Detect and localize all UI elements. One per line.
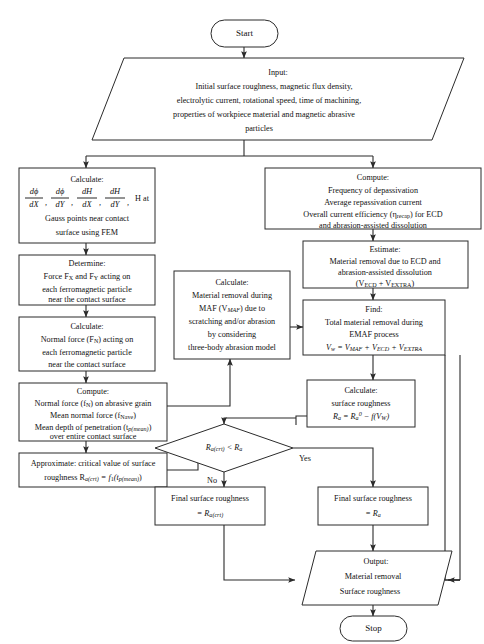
calc-roughness-line-2: surface roughness	[332, 399, 391, 408]
frac-1-num: dϕ	[30, 187, 39, 196]
comma-3: ,	[99, 198, 101, 207]
node-calculate-normal-force[interactable]: Calculate: Normal force (FN) acting on e…	[19, 317, 155, 371]
node-final-crt[interactable]: Final surface roughness = Ra(crt)	[155, 487, 265, 525]
output-line-1: Output:	[363, 557, 388, 566]
input-line-2: Initial surface roughness, magnetic flux…	[195, 82, 352, 91]
node-calculate-gradients[interactable]: Calculate: dϕ dX , dϕ dY , dH dX , dH dY…	[19, 168, 155, 243]
determine-line-2: Force FX and FY acting on	[44, 272, 131, 281]
calc-normal-heading: Calculate:	[70, 322, 103, 331]
node-calculate-maf[interactable]: Calculate: Material removal during MAF (…	[174, 271, 290, 359]
node-decision[interactable]: Ra(crt) < Ra Yes No	[155, 424, 311, 485]
output-line-2: Material removal	[345, 572, 402, 581]
calc-normal-line-2: Normal force (FN) acting on	[41, 335, 134, 344]
node-approximate-critical[interactable]: Approximate: critical value of surface r…	[19, 453, 167, 487]
find-line-2: Total material removal during	[325, 318, 423, 327]
node-compute-depassivation[interactable]: Compute: Frequency of depassivation Aver…	[265, 168, 481, 230]
node-estimate-removal[interactable]: Estimate: Material removal due to ECD an…	[303, 241, 468, 288]
node-calculate-roughness[interactable]: Calculate: surface roughness Ra = Ra0 − …	[307, 380, 415, 427]
stop-label: Stop	[365, 623, 382, 633]
determine-line-4: near the contact surface	[48, 295, 126, 304]
calc-normal-line-4: near the contact surface	[48, 360, 126, 369]
frac-1-den: dX	[29, 200, 39, 209]
frac-4-num: dH	[110, 187, 121, 196]
input-line-1: Input:	[268, 68, 288, 77]
compute-forces-heading: Compute:	[77, 387, 109, 396]
flowchart-canvas: Start Input: Initial surface roughness, …	[0, 0, 484, 644]
comma-1: ,	[45, 198, 47, 207]
maf-line-2: Material removal during	[192, 291, 272, 300]
node-stop[interactable]: Stop	[340, 616, 407, 641]
node-compute-forces[interactable]: Compute: Normal force (fN) on abrasive g…	[19, 383, 167, 441]
start-label: Start	[236, 28, 253, 38]
node-output[interactable]: Output: Material removal Surface roughne…	[302, 551, 452, 605]
maf-line-4: scratching and/or abrasion	[189, 317, 275, 326]
decision-yes-label: Yes	[299, 454, 311, 463]
node-input[interactable]: Input: Initial surface roughness, magnet…	[92, 58, 464, 140]
estimate-heading: Estimate:	[370, 245, 401, 254]
frac-3-den: dX	[82, 200, 92, 209]
frac-3-num: dH	[82, 187, 93, 196]
maf-line-5: by considering	[208, 330, 256, 339]
find-line-3: EMAF process	[349, 330, 398, 339]
final-ra-line-1: Final surface roughness	[334, 494, 412, 503]
find-heading: Find:	[365, 305, 382, 314]
edge-find-to-output-right	[445, 355, 460, 580]
depassivation-heading: Compute:	[357, 173, 389, 182]
edge-calcroughness-to-decision	[224, 416, 307, 425]
determine-line-3: each ferromagnetic particle	[42, 285, 132, 294]
input-line-5: particles	[245, 124, 273, 133]
compute-forces-line-5: over entire contact surface	[50, 432, 137, 441]
depassivation-line-5: and abrasion-assisted dissolution	[319, 221, 427, 230]
output-line-3: Surface roughness	[340, 587, 400, 596]
calc-gradients-tail: H at	[135, 194, 150, 203]
estimate-line-2: Material removal due to ECD and	[329, 257, 440, 266]
maf-line-6: three-body abrasion model	[188, 343, 276, 352]
frac-2-den: dY	[56, 200, 66, 209]
comma-4: ,	[127, 198, 129, 207]
estimate-line-3: abrasion-assisted dissolution	[338, 268, 432, 277]
comma-2: ,	[71, 198, 73, 207]
frac-4-den: dY	[111, 200, 121, 209]
calc-gradients-heading: Calculate:	[70, 175, 103, 184]
node-find-total[interactable]: Find: Total material removal during EMAF…	[303, 300, 445, 355]
edge-compute-to-maf	[167, 359, 230, 406]
depassivation-line-2: Frequency of depassivation	[328, 186, 418, 195]
calc-gradients-line-3: Gauss points near contact	[45, 214, 130, 223]
node-determine-forces[interactable]: Determine: Force FX and FY acting on eac…	[19, 255, 155, 305]
node-final-ra[interactable]: Final surface roughness = Ra	[318, 487, 428, 525]
edge-finalcrt-to-output	[224, 525, 295, 580]
maf-heading: Calculate:	[215, 278, 248, 287]
input-line-3: electrolytic current, rotational speed, …	[177, 96, 361, 105]
calc-roughness-heading: Calculate:	[344, 386, 377, 395]
compute-forces-line-2: Normal force (fN) on abrasive grain	[35, 399, 152, 408]
approximate-line-1: Approximate: critical value of surface	[31, 459, 156, 468]
final-crt-line-1: Final surface roughness	[171, 494, 249, 503]
depassivation-line-3: Average repassivation current	[324, 198, 422, 207]
frac-2-num: dϕ	[56, 187, 65, 196]
node-start[interactable]: Start	[211, 20, 278, 47]
calc-normal-line-3: each ferromagnetic particle	[42, 348, 132, 357]
depassivation-line-4: Overall current efficiency (ηrecap) for …	[303, 210, 443, 219]
determine-heading: Determine:	[69, 259, 106, 268]
decision-no-label: No	[207, 476, 217, 485]
input-line-4: properties of workpiece material and mag…	[173, 110, 355, 119]
calc-gradients-line-4: surface using FEM	[56, 228, 119, 237]
